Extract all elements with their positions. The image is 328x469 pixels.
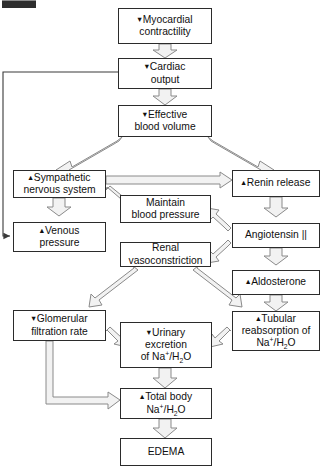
node-urinary-excretion[interactable]: ▾Urinaryexcretionof Na+/H2O [120,322,212,368]
node-label: Renalvasoconstriction [123,242,208,266]
edge-tubular-to-urinary [210,327,231,347]
edge-renal-to-gfr [89,266,138,307]
node-glomerular-filtration-rate[interactable]: ▾Glomerularfiltration rate [13,310,106,341]
node-renal-vasoconstriction[interactable]: Renalvasoconstriction [120,242,211,267]
node-label: ▾Urinaryexcretionof Na+/H2O [123,327,209,363]
increase-arrow-icon: ▴ [29,173,33,181]
node-label: ▴Sympatheticnervous system [16,172,103,196]
increase-arrow-icon: ▴ [246,277,250,285]
node-cardiac-output[interactable]: ▾Cardiacoutput [118,58,212,89]
node-myocardial-contractility[interactable]: ▾Myocardialcontractility [118,8,212,44]
decrease-arrow-icon: ▾ [147,328,151,336]
node-label: ▴Renin release [235,177,317,189]
edge-sympathetic-to-renin [106,172,232,188]
node-label: Maintainblood pressure [123,197,208,221]
page-corner-marker [2,1,36,8]
node-label: ▾Glomerularfiltration rate [16,313,103,337]
node-label: ▴Tubularreabsorption ofNa+/H2O [235,313,317,349]
edge-total-to-edema [153,419,177,438]
edge-angiotensin-to-aldosterone [264,248,288,265]
flowchart-canvas: ▾Myocardialcontractility ▾Cardiacoutput … [0,0,328,469]
decrease-arrow-icon: ▾ [137,15,141,23]
node-angiotensin-ii[interactable]: Angiotensin || [232,223,320,248]
node-edema[interactable]: EDEMA [120,438,212,466]
decrease-arrow-icon: ▾ [31,314,35,322]
node-total-body-sodium-water[interactable]: ▴Total bodyNa+/H2O [120,388,212,419]
increase-arrow-icon: ▴ [140,392,144,400]
edge-sympathetic-to-venous [47,198,71,216]
node-venous-pressure[interactable]: ▴Venouspressure [13,222,106,252]
node-label: ▾Myocardialcontractility [121,14,209,38]
edge-gfr-to-total [46,341,120,409]
edge-urinary-to-total [153,368,177,388]
node-effective-blood-volume[interactable]: ▾Effectiveblood volume [118,105,212,137]
node-label: ▾Effectiveblood volume [121,109,209,133]
decrease-arrow-icon: ▾ [145,62,149,70]
decrease-arrow-icon: ▾ [143,110,147,118]
node-label: EDEMA [123,446,209,458]
edge-myocardial-to-cardiac [153,44,177,58]
node-label: ▴Aldosterone [235,276,317,288]
increase-arrow-icon: ▴ [242,178,246,186]
node-sympathetic-nervous-system[interactable]: ▴Sympatheticnervous system [13,170,106,198]
edge-aldosterone-to-tubular [264,295,288,311]
node-tubular-reabsorption[interactable]: ▴Tubularreabsorption ofNa+/H2O [232,311,320,351]
node-renin-release[interactable]: ▴Renin release [232,170,320,197]
node-label: ▴Total bodyNa+/H2O [123,391,209,415]
edge-renin-to-angiotensin [264,197,288,217]
node-aldosterone[interactable]: ▴Aldosterone [232,270,320,295]
node-maintain-blood-pressure[interactable]: Maintainblood pressure [120,195,211,223]
node-label: ▴Venouspressure [16,225,103,249]
increase-arrow-icon: ▴ [40,226,44,234]
node-label: ▾Cardiacoutput [121,61,209,85]
increase-arrow-icon: ▴ [256,314,260,322]
node-label: Angiotensin || [235,229,317,241]
edge-cardiac-to-effective [153,89,177,105]
